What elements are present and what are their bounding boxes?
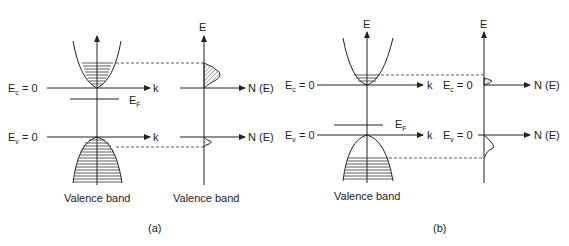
k-label-bottom: k [427,129,433,141]
panel-b-ek-diagram: E Ec = 0 k EF Ev = 0 k [285,18,433,202]
hole-distribution-curve [484,135,494,158]
ec-label: Ec = 0 [285,79,315,93]
dos-ec-label: Ec = 0 [443,79,473,93]
ev-label: Ev = 0 [285,129,315,143]
valence-band-filled-levels [74,140,123,182]
n-e-label-bottom: N (E) [248,131,274,143]
dos-energy-axis-label: E [480,18,487,30]
ef-label: EF [395,118,407,132]
k-label-top: k [427,79,433,91]
ev-label: Ev = 0 [8,131,38,145]
k-label-bottom: k [153,131,159,143]
diagram-canvas: Ec = 0 k EF Ev = 0 k [0,0,569,246]
ef-label: EF [129,94,141,108]
band-structure-figure: Ec = 0 k EF Ev = 0 k [0,0,569,246]
panel-a: Ec = 0 k EF Ev = 0 k [8,21,274,234]
valence-band-label-dos: Valence band [173,192,239,204]
panel-a-caption: (a) [148,222,161,234]
panel-a-dos-diagram: E N (E) N (E) Valence band [173,21,274,204]
hole-distribution-curve [204,137,211,147]
k-label-top: k [153,82,159,94]
electron-distribution-curve [484,78,492,85]
valence-band-filled-levels [344,158,393,179]
panel-b-caption: (b) [433,222,446,234]
energy-axis-label: E [363,18,370,30]
n-e-label-bottom: N (E) [534,129,560,141]
valence-band-label-ek: Valence band [64,192,130,204]
dos-energy-axis-label: E [199,21,206,33]
n-e-label-top: N (E) [248,82,274,94]
dos-ev-label: Ev = 0 [443,129,473,143]
valence-band-label-ek: Valence band [334,190,400,202]
ec-label: Ec = 0 [8,82,38,96]
panel-a-ek-diagram: Ec = 0 k EF Ev = 0 k [8,36,159,204]
electron-distribution-curve [204,63,220,88]
n-e-label-top: N (E) [534,79,560,91]
panel-b: E Ec = 0 k EF Ev = 0 k [285,18,560,234]
